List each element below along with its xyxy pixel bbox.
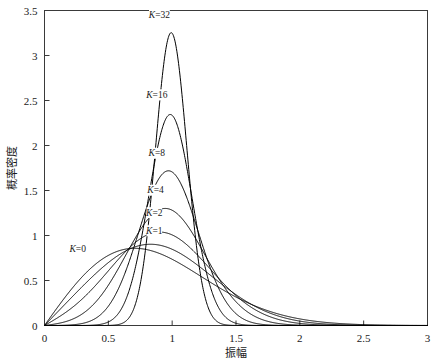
y-tick-label: 2 — [32, 140, 38, 152]
y-tick-label: 1 — [32, 230, 38, 242]
curve-label-k-2: K=2 — [145, 208, 163, 218]
x-tick-label: 0 — [42, 332, 48, 344]
y-tick-label: 3.5 — [24, 5, 38, 17]
y-tick-label: 3 — [32, 50, 38, 62]
pdf-curve — [45, 232, 428, 325]
y-tick-label: 0 — [32, 320, 38, 332]
x-tick-label: 1.5 — [229, 332, 243, 344]
curve-label-k-16: K=16 — [145, 90, 167, 100]
x-tick-label: 2.5 — [357, 332, 371, 344]
curve-label-k-1: K=1 — [145, 226, 163, 236]
curves-group — [45, 33, 428, 326]
y-tick-label: 0.5 — [24, 275, 38, 287]
x-tick-label: 1 — [169, 332, 175, 344]
pdf-curve — [45, 208, 428, 325]
rician-pdf-chart: 00.511.522.5300.511.522.533.5振幅概率密度K=0K=… — [0, 0, 439, 363]
pdf-curve — [45, 33, 428, 326]
x-axis-title: 振幅 — [225, 346, 247, 360]
y-axis-title: 概率密度 — [5, 146, 19, 190]
x-tick-label: 3 — [425, 332, 431, 344]
x-tick-label: 0.5 — [101, 332, 115, 344]
curve-label-k-8: K=8 — [148, 148, 166, 158]
y-axis: 00.511.522.533.5 — [24, 5, 50, 332]
curve-label-k-32: K=32 — [148, 10, 170, 20]
y-tick-label: 1.5 — [24, 185, 38, 197]
chart-figure: 00.511.522.5300.511.522.533.5振幅概率密度K=0K=… — [0, 0, 439, 363]
y-tick-label: 2.5 — [24, 95, 38, 107]
x-tick-label: 2 — [297, 332, 303, 344]
curve-annotations: K=0K=1K=2K=4K=8K=16K=32 — [68, 9, 170, 254]
curve-label-k-0: K=0 — [68, 244, 86, 254]
curve-label-k-4: K=4 — [146, 185, 164, 195]
